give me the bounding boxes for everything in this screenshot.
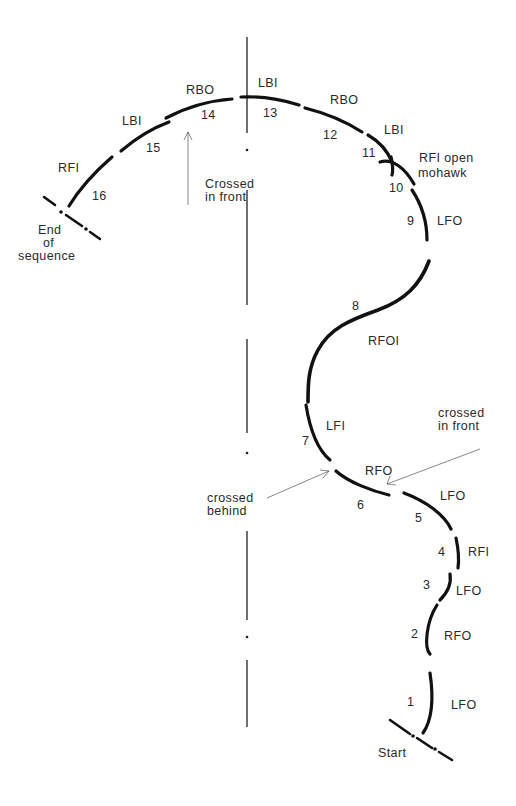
edge-number-1: 1 bbox=[407, 695, 414, 709]
crossed-behind-line1: crossed bbox=[207, 491, 254, 505]
end-label-line3: sequence bbox=[18, 249, 75, 263]
crossed-in-front-top-line1: Crossed bbox=[205, 177, 254, 191]
edge-number-12: 12 bbox=[323, 128, 338, 142]
edge-code-8: RFOI bbox=[368, 334, 399, 348]
annotation-text: Crossed in front crossed in front crosse… bbox=[18, 177, 485, 760]
edge-code-12: RBO bbox=[330, 93, 358, 107]
edge-code-labels: LFO RFO LFO RFI LFO RFO LFI RFOI LFO RFI… bbox=[58, 76, 489, 712]
edge-code-2: RFO bbox=[444, 629, 472, 643]
edge-number-2: 2 bbox=[411, 627, 418, 641]
edge-code-9: LFO bbox=[437, 214, 463, 228]
edge-code-7: LFI bbox=[326, 419, 345, 433]
edge-code-16: RFI bbox=[58, 161, 79, 175]
edge-code-5: LFO bbox=[440, 489, 466, 503]
edge-number-11: 11 bbox=[362, 146, 376, 160]
start-label: Start bbox=[378, 746, 407, 760]
edge-number-5: 5 bbox=[415, 511, 422, 525]
edge-number-7: 7 bbox=[302, 434, 309, 448]
skating-diagram: LFO RFO LFO RFI LFO RFO LFI RFOI LFO RFI… bbox=[0, 0, 516, 806]
edge-code-10: RFI open bbox=[419, 151, 474, 165]
edge-code-10b: mohawk bbox=[418, 166, 467, 180]
edge-number-9: 9 bbox=[407, 214, 414, 228]
edge-code-13: LBI bbox=[258, 76, 278, 90]
edge-code-4: RFI bbox=[468, 545, 489, 559]
edge-code-14: RBO bbox=[186, 83, 214, 97]
edge-number-16: 16 bbox=[92, 189, 107, 203]
edge-code-1: LFO bbox=[451, 698, 477, 712]
edge-number-10: 10 bbox=[389, 181, 404, 195]
edge-number-8: 8 bbox=[352, 299, 359, 313]
edge-number-4: 4 bbox=[438, 545, 445, 559]
edge-code-15: LBI bbox=[122, 114, 142, 128]
crossed-in-front-right-line2: in front bbox=[438, 419, 480, 433]
center-axis bbox=[246, 37, 249, 727]
edge-number-14: 14 bbox=[201, 108, 216, 122]
edge-number-3: 3 bbox=[423, 578, 430, 592]
end-label-line1: End bbox=[38, 223, 61, 237]
edge-code-6: RFO bbox=[365, 464, 393, 478]
edge-code-11: LBI bbox=[384, 123, 404, 137]
edge-number-15: 15 bbox=[146, 141, 161, 155]
crossed-in-front-top-line2: in front bbox=[205, 190, 247, 204]
edge-code-3: LFO bbox=[456, 584, 482, 598]
edge-number-6: 6 bbox=[357, 498, 364, 512]
end-label-line2: of bbox=[43, 236, 54, 250]
crossed-behind-line2: behind bbox=[207, 504, 247, 518]
edge-number-labels: 1 2 3 4 5 6 7 8 9 10 11 12 13 14 15 16 bbox=[92, 106, 445, 709]
crossed-in-front-right-line1: crossed bbox=[438, 406, 485, 420]
edge-number-13: 13 bbox=[263, 106, 278, 120]
